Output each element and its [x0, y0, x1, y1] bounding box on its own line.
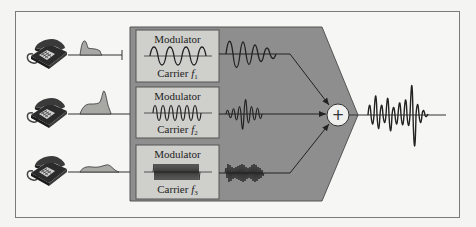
- modulator-label: Modulator: [154, 90, 201, 102]
- fdm-diagram: Modulator Carrier f1 Modulator Carrier f…: [0, 0, 476, 227]
- modulator-label: Modulator: [154, 148, 201, 160]
- plus-icon: +: [332, 106, 345, 124]
- carrier-label-1: Carrier f1: [157, 67, 198, 81]
- summing-junction: +: [327, 104, 349, 126]
- carrier-label-2: Carrier f2: [157, 123, 198, 137]
- modulator-label: Modulator: [154, 33, 201, 45]
- carrier-label-3: Carrier f3: [157, 183, 198, 197]
